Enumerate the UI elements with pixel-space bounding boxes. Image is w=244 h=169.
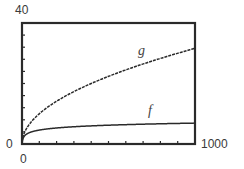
f-curve bbox=[22, 123, 195, 144]
y-min-label: 0 bbox=[6, 138, 13, 150]
x-min-label: 0 bbox=[20, 153, 27, 165]
axis-ticks bbox=[22, 35, 178, 144]
g-curve bbox=[22, 48, 195, 142]
f-label: f bbox=[148, 104, 152, 118]
x-max-label: 1000 bbox=[201, 138, 228, 150]
g-label: g bbox=[138, 44, 145, 58]
y-max-label: 40 bbox=[15, 4, 28, 16]
